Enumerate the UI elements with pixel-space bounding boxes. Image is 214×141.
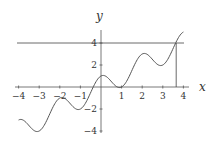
x-tick-label: 4 xyxy=(181,91,187,101)
x-tick-label: 3 xyxy=(160,91,166,101)
x-tick-label: −2 xyxy=(53,91,66,101)
x-tick-label: 2 xyxy=(139,91,145,101)
y-tick-label: 2 xyxy=(91,60,97,70)
y-tick-label: −2 xyxy=(84,104,97,114)
axes xyxy=(15,30,189,133)
chart: −4−3−2−1123442−2−4 x y xyxy=(0,0,214,141)
x-tick-label: 1 xyxy=(119,91,125,101)
y-axis-label: y xyxy=(95,9,103,23)
x-tick-label: −1 xyxy=(74,91,87,101)
y-tick-label: −4 xyxy=(84,126,98,136)
x-axis-label: x xyxy=(199,80,206,94)
x-tick-label: −4 xyxy=(12,91,26,101)
x-tick-label: −3 xyxy=(33,91,47,101)
